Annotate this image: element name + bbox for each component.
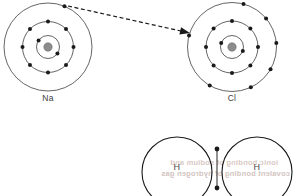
chlorine-outer-shell-electron-2 xyxy=(264,16,268,20)
background-bleed-text-group: ionic bonding of sodium and covalent bon… xyxy=(161,158,290,178)
sodium-middle-shell-electron-4 xyxy=(64,63,68,67)
chlorine-atom-diagram xyxy=(187,2,278,91)
chlorine-outer-shell-electron-5 xyxy=(249,85,253,89)
sodium-atom-diagram xyxy=(4,3,92,91)
chlorine-middle-shell-electron-5 xyxy=(230,71,234,75)
chlorine-outer-shell-electron-1 xyxy=(242,2,246,6)
chlorine-middle-shell-electron-1 xyxy=(230,19,234,23)
chlorine-middle-shell-electron-8 xyxy=(212,27,216,31)
shared-electron-top xyxy=(215,147,220,152)
chlorine-outer-shell-electron-3 xyxy=(274,41,278,45)
sodium-middle-shell-electron-1 xyxy=(46,20,50,24)
sodium-middle-shell-electron-2 xyxy=(64,27,68,31)
chlorine-label: Cl xyxy=(228,93,237,103)
chlorine-outer-shell-electron-4 xyxy=(269,67,273,71)
chlorine-middle-shell-electron-6 xyxy=(212,63,216,67)
sodium-middle-shell-electron-3 xyxy=(72,45,76,49)
electron-transfer-arrow xyxy=(68,6,185,32)
bonding-diagram-figure: ionic bonding of sodium and covalent bon… xyxy=(0,0,295,196)
sodium-middle-shell-electron-6 xyxy=(28,63,32,67)
sodium-outer-shell-electron-1 xyxy=(62,4,66,8)
chlorine-middle-shell-electron-4 xyxy=(248,63,252,67)
chlorine-nucleus xyxy=(228,43,236,51)
sodium-label: Na xyxy=(42,93,53,103)
shared-electron-bottom xyxy=(215,186,220,191)
bleed-text-line-2: covalent bonding of hydrogen gas xyxy=(161,169,290,178)
chlorine-outer-shell-electron-7 xyxy=(187,33,191,37)
bonding-diagram-canvas: ionic bonding of sodium and covalent bon… xyxy=(0,0,295,196)
sodium-middle-shell-electron-8 xyxy=(28,27,32,31)
sodium-middle-shell-electron-7 xyxy=(21,45,25,49)
sodium-inner-shell-electron-2 xyxy=(55,52,59,56)
chlorine-middle-shell-electron-3 xyxy=(256,45,260,49)
sodium-nucleus xyxy=(44,43,52,51)
chlorine-middle-shell-electron-2 xyxy=(248,27,252,31)
chlorine-outer-shell-electron-6 xyxy=(208,84,212,88)
sodium-inner-shell-electron-1 xyxy=(37,38,41,42)
hydrogen-right-label: H xyxy=(254,162,261,172)
electron-transfer-arrowhead xyxy=(179,27,190,34)
sodium-middle-shell-electron-5 xyxy=(46,71,50,75)
chlorine-inner-shell-electron-1 xyxy=(219,41,223,45)
chlorine-middle-shell-electron-7 xyxy=(204,45,208,49)
hydrogen-left-label: H xyxy=(174,162,181,172)
sodium-electrons xyxy=(21,4,76,74)
chlorine-inner-shell-electron-2 xyxy=(241,49,245,53)
electron-transfer-arrow-group xyxy=(68,6,190,35)
